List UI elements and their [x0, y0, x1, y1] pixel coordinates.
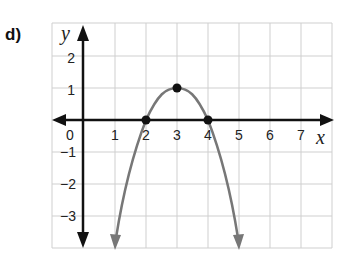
arrow-left-icon	[52, 114, 66, 126]
y-tick: 1	[67, 82, 75, 98]
x-tick: 5	[235, 127, 243, 143]
x-tick: 3	[173, 127, 181, 143]
x-axis	[52, 114, 334, 126]
grid	[52, 23, 332, 248]
arrow-up-icon	[77, 25, 89, 41]
x-tick-labels: 0 1 2 3 4 5 6 7	[66, 127, 305, 143]
x-tick: 0	[66, 127, 74, 143]
y-tick: −1	[60, 144, 76, 160]
problem-label: d)	[5, 25, 21, 44]
arrow-down-icon	[77, 232, 89, 248]
x-tick: 7	[297, 127, 305, 143]
y-tick: −3	[60, 208, 76, 224]
x-tick: 1	[111, 127, 119, 143]
x-intercept-point	[142, 116, 151, 125]
graph-figure: d) y x 0 1 2 3	[0, 0, 340, 256]
x-axis-label: x	[315, 126, 325, 148]
x-intercept-point	[204, 116, 213, 125]
y-axis-label: y	[59, 22, 70, 45]
y-tick: −2	[60, 176, 76, 192]
vertex-point	[173, 84, 182, 93]
y-axis	[77, 25, 89, 248]
x-tick: 6	[266, 127, 274, 143]
y-tick: 2	[67, 50, 75, 66]
